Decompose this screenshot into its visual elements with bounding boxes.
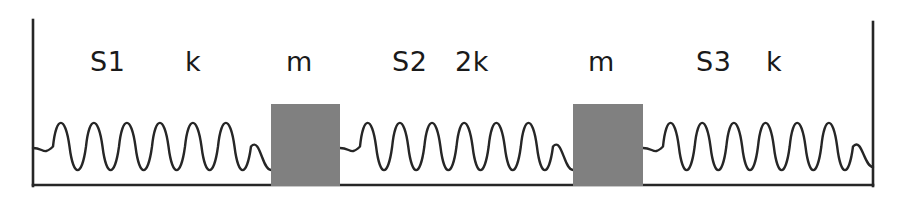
mass-block-m2 [573,104,643,186]
mass-block-m1 [271,104,340,186]
mass-label-m2: m [588,48,615,75]
spring-label-s1: S1 [90,48,125,75]
spring-mass-diagram: S1kmS22kmS3k [0,0,900,199]
spring-label-s3: S3 [696,48,731,75]
stiffness-label-k1: k [185,48,201,75]
stiffness-label-2k: 2k [455,48,489,75]
stiffness-label-k3: k [766,48,782,75]
diagram-canvas [0,0,900,199]
mass-label-m1: m [286,48,313,75]
spring-label-s2: S2 [392,48,427,75]
